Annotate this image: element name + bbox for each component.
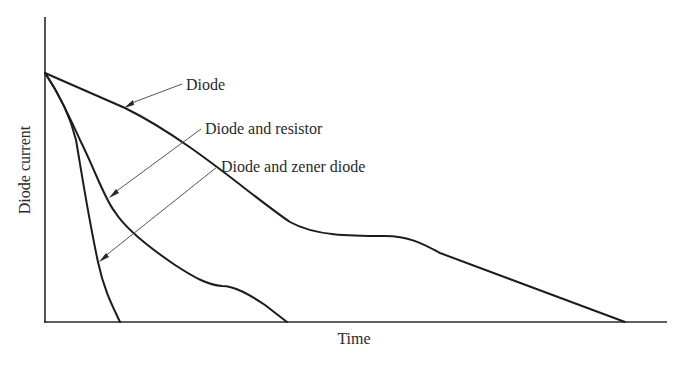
leader-line-zener xyxy=(104,167,217,257)
curve-diode-zener xyxy=(45,73,120,322)
label-diode: Diode xyxy=(186,76,225,93)
curve-diode xyxy=(45,73,625,322)
y-axis-label: Diode current xyxy=(16,125,33,214)
arrowhead-diode-icon xyxy=(124,100,134,108)
chart-canvas: Diode Diode and resistor Diode and zener… xyxy=(0,0,687,365)
leader-line-resistor xyxy=(114,129,201,193)
leader-line-diode xyxy=(129,84,182,104)
curve-diode-resistor xyxy=(45,73,287,322)
label-diode-resistor: Diode and resistor xyxy=(205,120,323,137)
label-diode-zener: Diode and zener diode xyxy=(221,158,365,175)
x-axis-label: Time xyxy=(337,330,370,347)
